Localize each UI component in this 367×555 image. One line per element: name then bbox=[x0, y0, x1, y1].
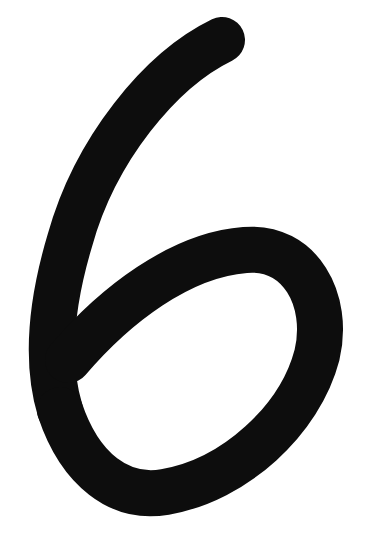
numeral-loop-stroke bbox=[60, 250, 320, 494]
numeral-six-drawing: 6 bbox=[0, 0, 367, 555]
numeral-six-icon bbox=[0, 0, 367, 555]
